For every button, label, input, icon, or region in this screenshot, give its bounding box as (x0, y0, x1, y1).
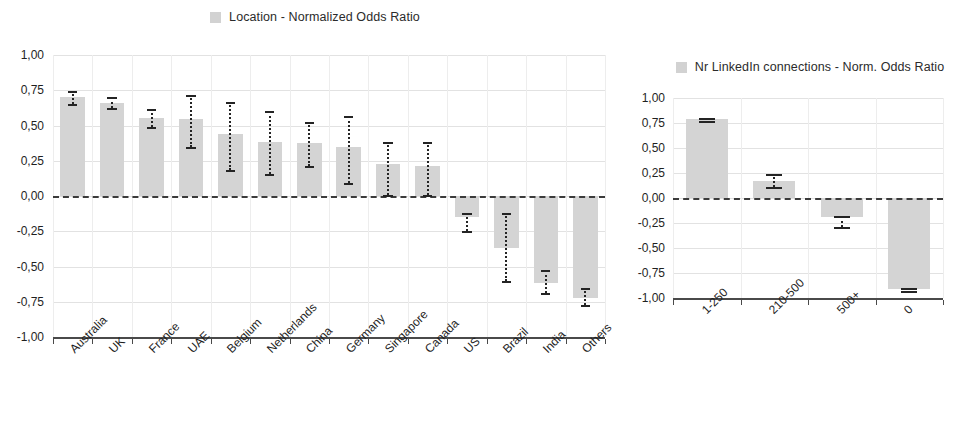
error-bar-cap-upper (423, 142, 432, 144)
error-bar-cap-upper (344, 116, 353, 118)
error-bar-cap-lower (186, 147, 195, 149)
error-bar-cap-lower (265, 174, 274, 176)
error-bar-stem (229, 102, 231, 170)
y-tick-label: -0,75 (17, 295, 44, 309)
error-bar-cap-upper (107, 97, 116, 99)
y-tick-label: 1,00 (642, 91, 665, 105)
error-bar-cap-lower (901, 291, 917, 293)
x-axis-tick (943, 300, 944, 305)
error-bar-cap-upper (834, 216, 850, 218)
linkedin-chart-title: Nr LinkedIn connections - Norm. Odds Rat… (695, 60, 944, 74)
error-bar-stem (584, 288, 586, 305)
error-bar-stem (427, 142, 429, 196)
y-tick-label: 1,00 (21, 48, 44, 62)
location-chart-panel: Location - Normalized Odds Ratio 1,000,7… (0, 0, 620, 424)
error-bar-stem (269, 111, 271, 174)
error-bar-cap-upper (541, 270, 550, 272)
y-tick-label: -0,75 (638, 266, 665, 280)
location-x-axis: AustraliaUKFranceUAEBelgiumNetherlandsCh… (53, 342, 605, 424)
location-y-axis: 1,000,750,500,250,00-0,25-0,50-0,75-1,00 (4, 55, 48, 337)
linkedin-plot: 1,000,750,500,250,00-0,25-0,50-0,75-1,00… (625, 88, 975, 338)
error-bar-stem (505, 213, 507, 281)
bar (888, 198, 930, 289)
linkedin-x-axis: 1-250210-500500+0 (673, 303, 943, 393)
error-bar-stem (545, 270, 547, 293)
error-bar-stem (387, 142, 389, 196)
legend-swatch-icon (210, 12, 221, 23)
y-tick-label: -0,25 (17, 224, 44, 238)
linkedin-plot-area (673, 98, 943, 298)
error-bar-cap-upper (383, 142, 392, 144)
error-bar-cap-lower (305, 166, 314, 168)
error-bar-cap-upper (305, 122, 314, 124)
error-bar-cap-lower (462, 231, 471, 233)
error-bar-cap-upper (462, 213, 471, 215)
x-tick-label: 0 (901, 302, 916, 317)
zero-reference-line (673, 198, 943, 200)
y-tick-label: 0,50 (21, 119, 44, 133)
error-bar-cap-lower (107, 108, 116, 110)
location-chart-title: Location - Normalized Odds Ratio (229, 10, 420, 24)
error-bar-stem (466, 213, 468, 231)
error-bar-cap-lower (581, 305, 590, 307)
error-bar-cap-lower (226, 170, 235, 172)
y-tick-label: -0,25 (638, 216, 665, 230)
vertical-gridline (943, 98, 944, 298)
error-bar-cap-upper (186, 95, 195, 97)
linkedin-chart-panel: Nr LinkedIn connections - Norm. Odds Rat… (625, 0, 975, 424)
error-bar-cap-lower (68, 104, 77, 106)
bar (686, 119, 728, 198)
zero-reference-line (53, 196, 605, 198)
error-bar-cap-upper (147, 109, 156, 111)
error-bar-stem (151, 109, 153, 127)
error-bar-cap-upper (502, 213, 511, 215)
error-bar-cap-lower (423, 195, 432, 197)
y-tick-label: -0,50 (638, 241, 665, 255)
error-bar-cap-lower (834, 227, 850, 229)
y-tick-label: -0,50 (17, 260, 44, 274)
linkedin-y-axis: 1,000,750,500,250,00-0,25-0,50-0,75-1,00 (625, 98, 669, 298)
error-bar-cap-lower (766, 187, 782, 189)
error-bar-cap-lower (383, 195, 392, 197)
bar (821, 198, 863, 217)
y-tick-label: 0,75 (21, 83, 44, 97)
error-bar-stem (190, 95, 192, 147)
bar (139, 118, 163, 196)
y-tick-label: 0,50 (642, 141, 665, 155)
bar (573, 196, 597, 298)
error-bar-stem (308, 122, 310, 166)
legend-swatch-icon (676, 62, 687, 73)
error-bar-cap-upper (901, 288, 917, 290)
linkedin-chart-legend: Nr LinkedIn connections - Norm. Odds Rat… (650, 58, 970, 76)
error-bar-stem (348, 116, 350, 183)
y-tick-label: 0,00 (642, 191, 665, 205)
y-tick-label: -1,00 (17, 330, 44, 344)
error-bar-cap-upper (226, 102, 235, 104)
error-bar-cap-lower (147, 127, 156, 129)
error-bar-cap-upper (265, 111, 274, 113)
error-bar-cap-upper (68, 91, 77, 93)
vertical-gridline (605, 55, 606, 337)
location-plot-area (53, 55, 605, 337)
error-bar-cap-lower (699, 121, 715, 123)
error-bar-cap-upper (581, 288, 590, 290)
error-bar-cap-lower (344, 183, 353, 185)
x-axis-tick (605, 339, 606, 344)
y-tick-label: 0,25 (642, 166, 665, 180)
error-bar-cap-lower (502, 281, 511, 283)
location-chart-legend: Location - Normalized Odds Ratio (150, 8, 480, 26)
location-plot: 1,000,750,500,250,00-0,25-0,50-0,75-1,00… (0, 40, 620, 350)
error-bar-cap-upper (766, 174, 782, 176)
y-tick-label: 0,25 (21, 154, 44, 168)
y-tick-label: 0,00 (21, 189, 44, 203)
y-tick-label: -1,00 (638, 291, 665, 305)
bar (60, 97, 84, 196)
bar (100, 103, 124, 196)
y-tick-label: 0,75 (642, 116, 665, 130)
error-bar-cap-lower (541, 293, 550, 295)
